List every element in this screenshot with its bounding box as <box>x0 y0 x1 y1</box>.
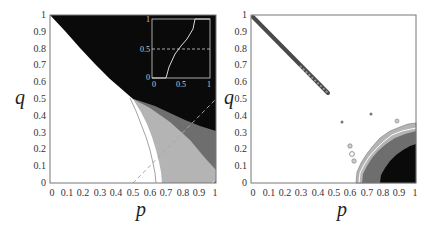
right-xtick: 0.7 <box>361 187 374 198</box>
inset-ytick-0: 0 <box>146 73 150 82</box>
right-xtick: 0.3 <box>295 187 308 198</box>
left-ytick: 0.8 <box>34 43 47 54</box>
left-ytick: 0.2 <box>34 143 47 154</box>
right-y-axis-title: q <box>224 86 234 109</box>
left-ytick: 0.3 <box>34 127 47 138</box>
inset-ytick-0.5: 0.5 <box>140 45 150 54</box>
isolated-point <box>348 144 352 148</box>
left-xtick: 0.5 <box>127 187 140 198</box>
right-xtick: 0.5 <box>328 187 341 198</box>
right-x-axis-title: p <box>335 198 347 221</box>
right-ytick: 0.7 <box>235 59 248 70</box>
inset-xtick-0.5: 0.5 <box>176 80 186 89</box>
right-xtick: 0.1 <box>263 187 276 198</box>
left-xtick: 0.7 <box>160 187 173 198</box>
isolated-point <box>370 113 373 116</box>
left-y-axis-title: q <box>15 86 25 109</box>
left-xtick: 0.4 <box>110 187 123 198</box>
right-xtick: 0 <box>251 187 256 198</box>
figure: 1 0.5 0 0 0.5 1 0 0.1 0.2 0.3 0.4 0.5 0.… <box>0 0 435 230</box>
left-xtick: 0 <box>50 187 55 198</box>
right-ytick: 0.8 <box>235 43 248 54</box>
right-contour-plot: 0 0.1 0.2 0.3 0.4 0.5 0.6 0.7 0.8 0.9 1 … <box>224 9 418 221</box>
left-ytick: 1 <box>41 9 46 20</box>
isolated-point <box>395 119 399 123</box>
right-xtick: 0.9 <box>393 187 406 198</box>
right-xtick: 0.8 <box>377 187 390 198</box>
right-xtick: 0.6 <box>344 187 357 198</box>
inset-xtick-1: 1 <box>207 80 211 89</box>
left-ytick: 0.5 <box>34 93 47 104</box>
left-xtick: 0.1 <box>61 187 74 198</box>
left-contour-plot: 1 0.5 0 0 0.5 1 0 0.1 0.2 0.3 0.4 0.5 0.… <box>15 9 218 221</box>
isolated-point <box>341 121 344 124</box>
right-y-tick-labels: 0 0.1 0.2 0.3 0.4 0.5 0.6 0.7 0.8 0.9 1 <box>235 9 248 188</box>
left-ytick: 0.9 <box>34 26 47 37</box>
left-x-axis-title: p <box>134 198 146 221</box>
left-xtick: 0.2 <box>77 187 90 198</box>
left-y-tick-labels: 0 0.1 0.2 0.3 0.4 0.5 0.6 0.7 0.8 0.9 1 <box>34 9 47 188</box>
isolated-point <box>352 159 356 163</box>
right-ytick: 0.4 <box>235 110 248 121</box>
left-ytick: 0.1 <box>34 160 47 171</box>
right-ytick: 0.9 <box>235 26 248 37</box>
right-xtick: 0.2 <box>279 187 292 198</box>
left-ytick: 0 <box>41 177 46 188</box>
right-ytick: 0.3 <box>235 127 248 138</box>
isolated-point <box>350 152 355 157</box>
right-ytick: 0.2 <box>235 143 248 154</box>
right-ytick: 1 <box>242 9 247 20</box>
right-ytick: 0.5 <box>235 93 248 104</box>
left-xtick: 1 <box>213 187 218 198</box>
left-x-tick-labels: 0 0.1 0.2 0.3 0.4 0.5 0.6 0.7 0.8 0.9 1 <box>50 187 218 198</box>
right-ytick: 0 <box>242 177 247 188</box>
left-xtick: 0.3 <box>94 187 107 198</box>
right-xtick: 1 <box>413 187 418 198</box>
left-ytick: 0.6 <box>34 76 47 87</box>
inset-xtick-0: 0 <box>152 80 156 89</box>
left-xtick: 0.6 <box>144 187 157 198</box>
right-x-tick-labels: 0 0.1 0.2 0.3 0.4 0.5 0.6 0.7 0.8 0.9 1 <box>251 187 418 198</box>
inset-ytick-1: 1 <box>146 15 150 24</box>
right-ytick: 0.1 <box>235 160 248 171</box>
left-ytick: 0.4 <box>34 110 47 121</box>
left-ytick: 0.7 <box>34 59 47 70</box>
left-xtick: 0.9 <box>193 187 206 198</box>
right-xtick: 0.4 <box>312 187 325 198</box>
right-ytick: 0.6 <box>235 76 248 87</box>
left-xtick: 0.8 <box>177 187 190 198</box>
